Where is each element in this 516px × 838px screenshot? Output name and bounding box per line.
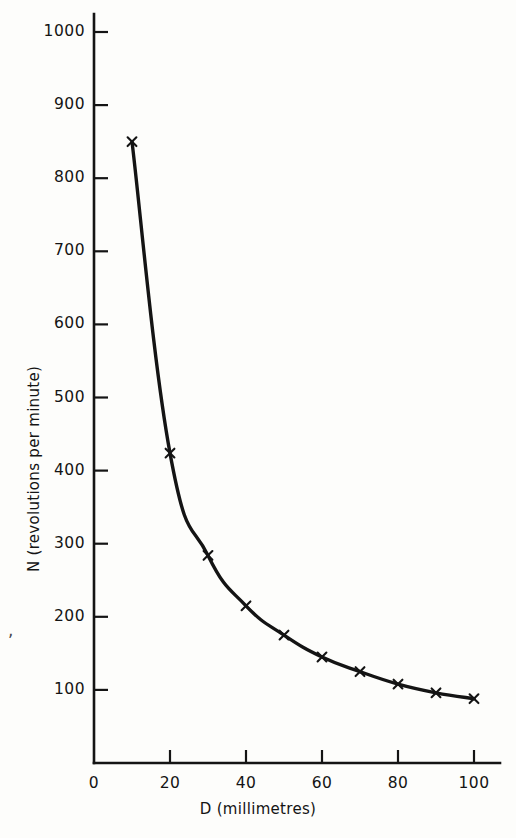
axes <box>94 14 500 763</box>
y-tick-label: 200 <box>18 607 85 625</box>
x-tick-label: 0 <box>64 774 124 792</box>
y-tick-label: 1000 <box>18 22 85 40</box>
y-tick-label: 900 <box>18 95 85 113</box>
x-tick-label: 80 <box>368 774 428 792</box>
x-axis-title: D (millimetres) <box>0 800 516 818</box>
x-tick-label: 100 <box>444 774 504 792</box>
stray-ink-mark: , <box>8 620 13 640</box>
x-tick-label: 20 <box>140 774 200 792</box>
data-markers <box>128 137 479 703</box>
y-tick-label: 700 <box>18 241 85 259</box>
chart-figure: 1000900800700600500400300200100 02040608… <box>0 0 516 838</box>
data-curve <box>132 142 474 699</box>
x-tick-label: 40 <box>216 774 276 792</box>
plot-area <box>0 0 516 838</box>
y-tick-label: 600 <box>18 314 85 332</box>
y-axis-title: N (revolutions per minute) <box>25 339 43 599</box>
y-tick-label: 800 <box>18 168 85 186</box>
y-tick-label: 100 <box>18 680 85 698</box>
x-tick-label: 60 <box>292 774 352 792</box>
